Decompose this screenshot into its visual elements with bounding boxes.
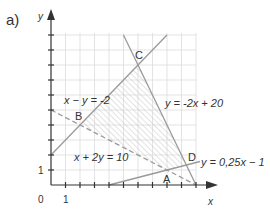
eq-label-x-minus-y: x − y = -2 xyxy=(63,94,110,106)
origin-label: 0 xyxy=(38,194,44,205)
point-label-b: B xyxy=(75,110,82,122)
eq-label-y-neg2x-20: y = -2x + 20 xyxy=(164,97,224,109)
y-tick-label: 1 xyxy=(38,165,44,176)
y-axis-arrow-icon xyxy=(47,9,55,20)
x-axis-arrow-icon xyxy=(206,181,218,189)
diagram-canvas: a) y x 0 1 1 x − y = -2 y = -2x + 20 x +… xyxy=(0,0,270,209)
x-axis-label: x xyxy=(207,196,214,207)
point-label-c: C xyxy=(135,49,143,61)
point-label-a: A xyxy=(163,173,171,185)
line-y-eq-0.25x-minus-1 xyxy=(109,162,200,186)
part-label: a) xyxy=(6,11,19,28)
eq-label-x-plus-2y: x + 2y = 10 xyxy=(73,151,129,163)
x-tick-label: 1 xyxy=(63,194,69,205)
y-axis-label: y xyxy=(37,11,44,22)
point-label-d: D xyxy=(188,151,196,163)
eq-label-y-0.25x: y = 0,25x − 1 xyxy=(200,156,265,168)
